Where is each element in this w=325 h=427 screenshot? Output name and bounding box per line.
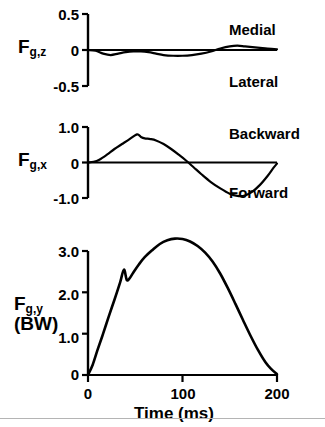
ytick-fgz-1: 0 xyxy=(46,43,79,58)
ytick-fgx-2: -1.0 xyxy=(36,191,79,206)
ytick-fgy-0: 3.0 xyxy=(42,244,79,259)
direction-label-medial: Medial xyxy=(229,22,276,37)
bottom-divider xyxy=(0,418,325,419)
ytick-fgz-2: -0.5 xyxy=(40,79,79,94)
ytick-fgx-1: 0 xyxy=(46,156,79,171)
ytick-fgy-2: 1.0 xyxy=(42,330,79,345)
xaxis-title: Time (ms) xyxy=(134,405,214,422)
ytick-fgz-0: 0.5 xyxy=(46,7,79,22)
xtick-0: 0 xyxy=(80,386,96,401)
direction-label-forward: Forward xyxy=(229,185,288,200)
ytick-fgy-1: 2.0 xyxy=(42,287,79,302)
panel-fgy-axes xyxy=(82,251,277,382)
ytick-fgx-0: 1.0 xyxy=(42,120,79,135)
series-label-fgx: Fg,x xyxy=(18,150,47,170)
force-plots-svg xyxy=(0,0,325,427)
ground-reaction-force-figure: Fg,z 0.5 0 -0.5 Medial Lateral Fg,x 1.0 … xyxy=(0,0,325,427)
xtick-100: 100 xyxy=(166,386,200,401)
direction-label-backward: Backward xyxy=(229,126,300,141)
direction-label-lateral: Lateral xyxy=(229,74,278,89)
series-label-fgz: Fg,z xyxy=(18,37,46,57)
ytick-fgy-3: 0 xyxy=(46,367,79,382)
panel-fgy-curve xyxy=(88,239,277,375)
xtick-200: 200 xyxy=(260,386,294,401)
